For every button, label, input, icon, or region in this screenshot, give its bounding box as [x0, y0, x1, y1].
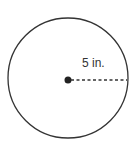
center-point [65, 77, 72, 84]
radius-label: 5 in. [82, 56, 105, 70]
circle-diagram: 5 in. [0, 0, 136, 147]
